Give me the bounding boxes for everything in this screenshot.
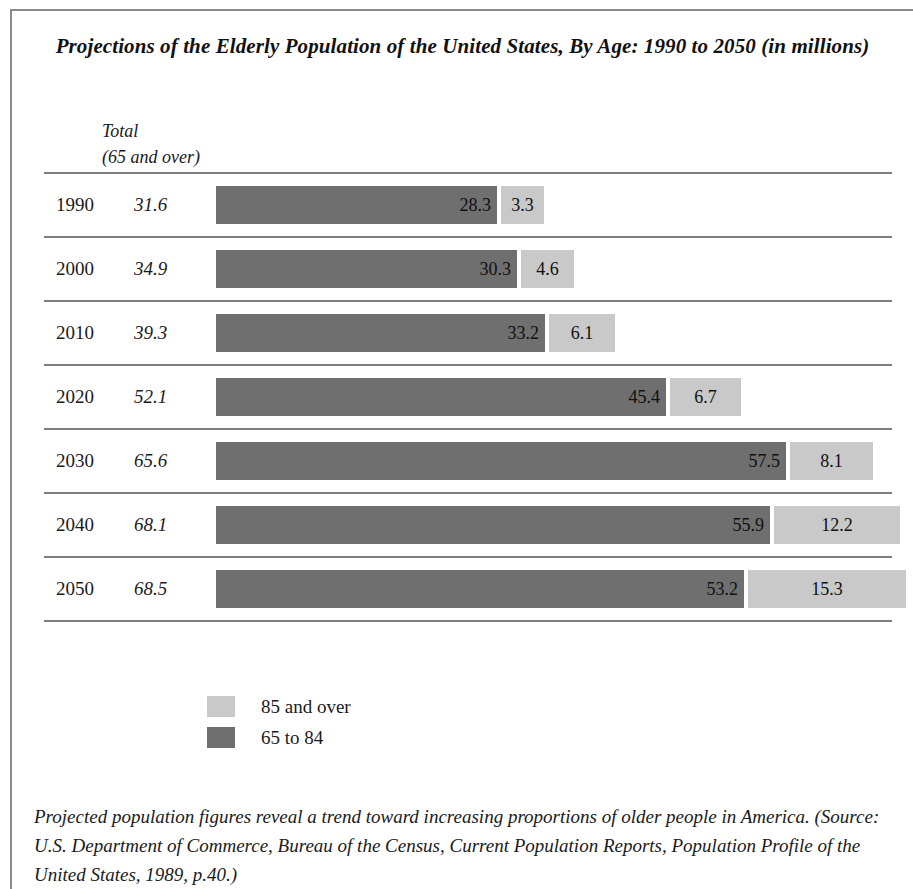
row-bars: 33.26.1 [216, 314, 615, 352]
row-total-value: 39.3 [134, 322, 167, 344]
bar-segment-85-and-over: 4.6 [521, 250, 574, 288]
row-bars: 30.34.6 [216, 250, 574, 288]
row-total-value: 65.6 [134, 450, 167, 472]
chart-row: 204068.155.912.2 [44, 494, 892, 556]
legend-item: 65 to 84 [207, 722, 351, 753]
bar-segment-85-and-over: 15.3 [748, 570, 906, 608]
row-total-value: 31.6 [134, 194, 167, 216]
legend-swatch-icon [207, 696, 235, 717]
column-header-line-1: Total [102, 119, 200, 145]
bar-segment-85-and-over: 6.7 [670, 378, 741, 416]
row-bars: 28.33.3 [216, 186, 544, 224]
row-total-value: 34.9 [134, 258, 167, 280]
bar-segment-65-to-84: 28.3 [216, 186, 497, 224]
bar-segment-85-and-over: 6.1 [549, 314, 615, 352]
row-total-value: 52.1 [134, 386, 167, 408]
row-year-label: 2050 [56, 578, 94, 600]
row-bars: 55.912.2 [216, 506, 900, 544]
bar-value-85-and-over: 4.6 [536, 259, 559, 280]
row-year-label: 1990 [56, 194, 94, 216]
bar-value-85-and-over: 15.3 [811, 579, 843, 600]
chart-row: 200034.930.34.6 [44, 238, 892, 300]
bar-segment-65-to-84: 33.2 [216, 314, 545, 352]
row-bars: 53.215.3 [216, 570, 906, 608]
chart-rows: 199031.628.33.3200034.930.34.6201039.333… [44, 172, 892, 622]
chart-row: 199031.628.33.3 [44, 174, 892, 236]
row-divider [44, 620, 892, 622]
chart-row: 202052.145.46.7 [44, 366, 892, 428]
row-total-value: 68.1 [134, 514, 167, 536]
row-year-label: 2010 [56, 322, 94, 344]
bar-value-65-to-84: 57.5 [749, 451, 787, 472]
bar-segment-65-to-84: 57.5 [216, 442, 786, 480]
row-year-label: 2040 [56, 514, 94, 536]
bar-value-85-and-over: 8.1 [820, 451, 843, 472]
legend-label: 85 and over [261, 696, 351, 718]
chart-row: 205068.553.215.3 [44, 558, 892, 620]
bar-segment-65-to-84: 45.4 [216, 378, 666, 416]
column-header: Total (65 and over) [102, 119, 200, 170]
bar-value-85-and-over: 6.1 [571, 323, 594, 344]
chart-legend: 85 and over65 to 84 [207, 691, 351, 753]
figure-frame: Projections of the Elderly Population of… [10, 9, 913, 889]
row-year-label: 2030 [56, 450, 94, 472]
chart-row: 201039.333.26.1 [44, 302, 892, 364]
figure-caption: Projected population figures reveal a tr… [34, 803, 890, 889]
bar-value-85-and-over: 3.3 [511, 195, 534, 216]
bar-value-65-to-84: 53.2 [707, 579, 745, 600]
bar-value-85-and-over: 12.2 [821, 515, 853, 536]
chart-title: Projections of the Elderly Population of… [40, 33, 885, 61]
row-total-value: 68.5 [134, 578, 167, 600]
bar-value-65-to-84: 33.2 [508, 323, 546, 344]
legend-item: 85 and over [207, 691, 351, 722]
bar-value-65-to-84: 45.4 [629, 387, 667, 408]
bar-segment-65-to-84: 30.3 [216, 250, 517, 288]
bar-value-65-to-84: 30.3 [480, 259, 518, 280]
legend-label: 65 to 84 [261, 727, 323, 749]
chart-row: 203065.657.58.1 [44, 430, 892, 492]
bar-value-85-and-over: 6.7 [694, 387, 717, 408]
bar-segment-65-to-84: 55.9 [216, 506, 770, 544]
row-year-label: 2020 [56, 386, 94, 408]
bar-value-65-to-84: 28.3 [460, 195, 498, 216]
row-year-label: 2000 [56, 258, 94, 280]
bar-segment-85-and-over: 3.3 [501, 186, 544, 224]
bar-segment-85-and-over: 12.2 [774, 506, 900, 544]
bar-value-65-to-84: 55.9 [733, 515, 771, 536]
column-header-line-2: (65 and over) [102, 145, 200, 171]
bar-segment-85-and-over: 8.1 [790, 442, 873, 480]
row-bars: 45.46.7 [216, 378, 741, 416]
bar-segment-65-to-84: 53.2 [216, 570, 744, 608]
row-bars: 57.58.1 [216, 442, 873, 480]
legend-swatch-icon [207, 727, 235, 748]
